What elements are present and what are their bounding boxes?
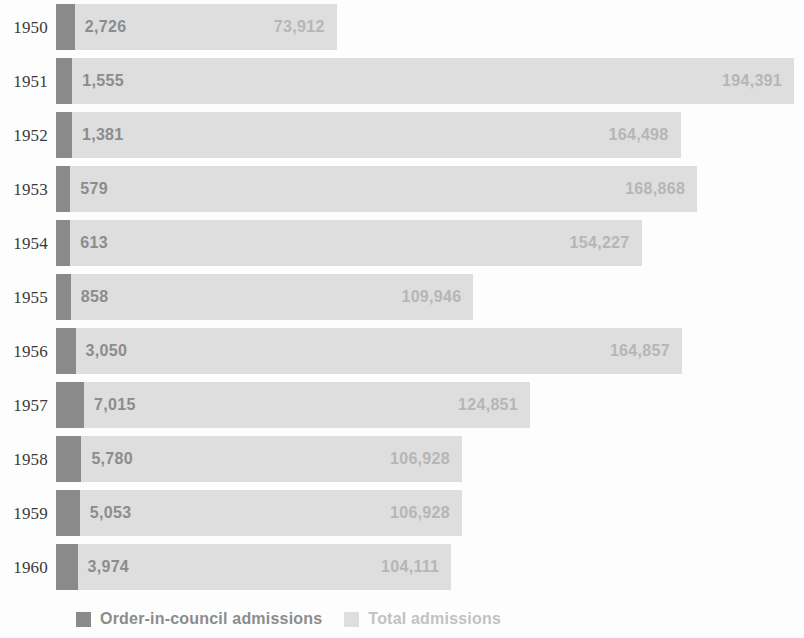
bar-total-admissions [56, 382, 530, 428]
bar-total-admissions [56, 112, 681, 158]
bar-total-admissions [56, 328, 682, 374]
bar-total-admissions [56, 58, 794, 104]
chart-row: 1954613154,227 [0, 216, 804, 270]
bar-track: 1,381164,498 [56, 112, 804, 158]
bar-order-in-council [56, 274, 71, 320]
bar-total-admissions [56, 490, 462, 536]
bar-track: 2,72673,912 [56, 4, 804, 50]
bar-order-in-council [56, 436, 81, 482]
bar-total-admissions [56, 4, 337, 50]
bar-track: 858109,946 [56, 274, 804, 320]
legend-label-order-in-council: Order-in-council admissions [100, 610, 322, 628]
bar-total-admissions [56, 274, 473, 320]
chart-row: 19521,381164,498 [0, 108, 804, 162]
bar-order-in-council [56, 4, 75, 50]
bar-order-in-council [56, 544, 78, 590]
bar-track: 1,555194,391 [56, 58, 804, 104]
year-axis-label: 1954 [0, 235, 56, 252]
chart-row: 19502,72673,912 [0, 0, 804, 54]
chart-row: 19577,015124,851 [0, 378, 804, 432]
bar-total-admissions [56, 436, 462, 482]
bar-total-admissions [56, 166, 697, 212]
bar-order-in-council [56, 382, 84, 428]
year-axis-label: 1950 [0, 19, 56, 36]
chart-row: 19585,780106,928 [0, 432, 804, 486]
bar-track: 7,015124,851 [56, 382, 804, 428]
year-axis-label: 1953 [0, 181, 56, 198]
bar-total-admissions [56, 544, 451, 590]
bar-total-admissions [56, 220, 642, 266]
chart-row: 1955858109,946 [0, 270, 804, 324]
bar-track: 5,780106,928 [56, 436, 804, 482]
horizontal-bar-chart: 19502,72673,91219511,555194,39119521,381… [0, 0, 804, 638]
year-axis-label: 1960 [0, 559, 56, 576]
bar-track: 613154,227 [56, 220, 804, 266]
bar-track: 579168,868 [56, 166, 804, 212]
bar-order-in-council [56, 490, 80, 536]
chart-plot-area: 19502,72673,91219511,555194,39119521,381… [0, 0, 804, 594]
chart-row: 19511,555194,391 [0, 54, 804, 108]
year-axis-label: 1958 [0, 451, 56, 468]
year-axis-label: 1952 [0, 127, 56, 144]
bar-order-in-council [56, 328, 76, 374]
chart-row: 19563,050164,857 [0, 324, 804, 378]
bar-order-in-council [56, 58, 72, 104]
chart-row: 19595,053106,928 [0, 486, 804, 540]
legend-item-total-admissions: Total admissions [344, 610, 501, 628]
year-axis-label: 1956 [0, 343, 56, 360]
legend-label-total-admissions: Total admissions [368, 610, 501, 628]
bar-order-in-council [56, 112, 72, 158]
bar-track: 3,050164,857 [56, 328, 804, 374]
year-axis-label: 1957 [0, 397, 56, 414]
year-axis-label: 1955 [0, 289, 56, 306]
chart-row: 19603,974104,111 [0, 540, 804, 594]
chart-legend: Order-in-council admissions Total admiss… [0, 600, 804, 638]
bar-track: 5,053106,928 [56, 490, 804, 536]
year-axis-label: 1959 [0, 505, 56, 522]
year-axis-label: 1951 [0, 73, 56, 90]
chart-row: 1953579168,868 [0, 162, 804, 216]
bar-order-in-council [56, 166, 70, 212]
dark-gray-swatch-icon [76, 612, 91, 627]
light-gray-swatch-icon [344, 612, 359, 627]
legend-item-order-in-council: Order-in-council admissions [76, 610, 322, 628]
bar-order-in-council [56, 220, 70, 266]
bar-track: 3,974104,111 [56, 544, 804, 590]
